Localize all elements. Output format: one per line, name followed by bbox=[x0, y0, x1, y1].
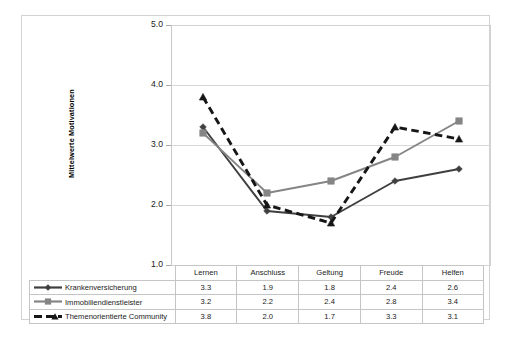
legend-label: Themenorientierte Community bbox=[65, 312, 167, 321]
legend-item-immobiliendienstleister: Immobiliendienstleister bbox=[30, 295, 176, 310]
data-point-triangle bbox=[455, 135, 462, 142]
column-header: Helfen bbox=[422, 266, 483, 281]
data-point-square bbox=[200, 130, 206, 136]
series-line bbox=[203, 97, 459, 223]
table-cell: 2.8 bbox=[360, 295, 422, 310]
y-axis-title: Mittelwerte Motivationen bbox=[67, 54, 76, 214]
table-row: Krankenversicherung 3.3 1.9 1.8 2.4 2.6 bbox=[30, 280, 484, 295]
column-header: Geltung bbox=[299, 266, 361, 281]
legend-marker-diamond-icon bbox=[33, 283, 63, 292]
table-cell: 1.9 bbox=[237, 280, 299, 295]
table-cell: 2.4 bbox=[299, 295, 361, 310]
data-point-square bbox=[264, 190, 270, 196]
data-point-square bbox=[456, 118, 462, 124]
table-cell: 1.8 bbox=[299, 280, 361, 295]
legend-corner-cell bbox=[30, 266, 176, 281]
data-point-triangle bbox=[199, 93, 206, 100]
table-cell: 3.2 bbox=[175, 295, 237, 310]
legend-marker-square-icon bbox=[33, 297, 63, 306]
column-header: Anschluss bbox=[237, 266, 299, 281]
series-3 bbox=[199, 93, 462, 226]
table-cell: 3.4 bbox=[422, 295, 483, 310]
y-tick-label-3: 3.0 bbox=[123, 140, 163, 149]
legend-item-krankenversicherung: Krankenversicherung bbox=[30, 280, 176, 295]
series-1 bbox=[200, 124, 463, 221]
series-2 bbox=[200, 118, 462, 196]
chart-figure: Mittelwerte Motivationen 5.0 4.0 3.0 2.0… bbox=[0, 0, 512, 339]
plot-inner bbox=[171, 25, 491, 265]
legend-marker-triangle-icon bbox=[33, 312, 63, 321]
table-row: Immobiliendienstleister 3.2 2.2 2.4 2.8 … bbox=[30, 295, 484, 310]
table-cell: 3.3 bbox=[360, 309, 422, 324]
data-point-triangle bbox=[391, 123, 398, 130]
table-header-row: Lernen Anschluss Geltung Freude Helfen bbox=[30, 266, 484, 281]
table-cell: 3.3 bbox=[175, 280, 237, 295]
y-tick-label-4: 4.0 bbox=[123, 80, 163, 89]
table-cell: 2.4 bbox=[360, 280, 422, 295]
column-header: Freude bbox=[360, 266, 422, 281]
y-tick-label-2: 2.0 bbox=[123, 200, 163, 209]
legend-label: Immobiliendienstleister bbox=[65, 298, 142, 307]
series-plot bbox=[171, 25, 491, 265]
table-cell: 2.2 bbox=[237, 295, 299, 310]
table-cell: 3.1 bbox=[422, 309, 483, 324]
data-point-square bbox=[328, 178, 334, 184]
table-cell: 3.8 bbox=[175, 309, 237, 324]
legend-item-themenorientierte-community: Themenorientierte Community bbox=[30, 309, 176, 324]
chart-frame: Mittelwerte Motivationen 5.0 4.0 3.0 2.0… bbox=[21, 15, 490, 320]
y-tick-label-5: 5.0 bbox=[123, 20, 163, 29]
table-cell: 2.0 bbox=[237, 309, 299, 324]
table-cell: 2.6 bbox=[422, 280, 483, 295]
table-row: Themenorientierte Community 3.8 2.0 1.7 … bbox=[30, 309, 484, 324]
data-table: Lernen Anschluss Geltung Freude Helfen K… bbox=[29, 265, 484, 324]
table-cell: 1.7 bbox=[299, 309, 361, 324]
data-point-diamond bbox=[456, 166, 463, 173]
legend-label: Krankenversicherung bbox=[65, 283, 137, 292]
plot-area: 5.0 4.0 3.0 2.0 1.0 bbox=[171, 25, 491, 265]
series-line bbox=[203, 127, 459, 217]
data-point-square bbox=[392, 154, 398, 160]
column-header: Lernen bbox=[175, 266, 237, 281]
